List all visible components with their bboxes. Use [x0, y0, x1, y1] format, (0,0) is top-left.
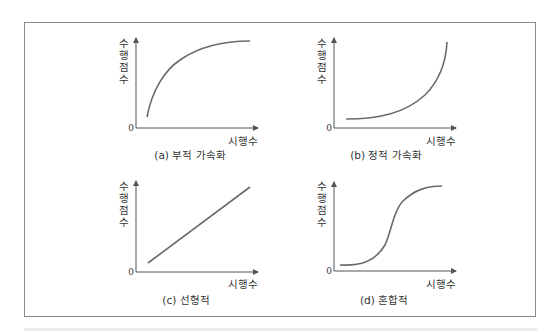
origin-label: 0 — [326, 123, 332, 133]
y-axis-label-char: 수 — [317, 73, 327, 85]
x-axis-label: 시행수 — [426, 278, 456, 290]
panel-caption: (a) 부적 가속화 — [154, 149, 225, 161]
learning-curves-figure: 수 행 점 수 0 시행수 (a) 부적 가속화 수 행 점 수 0 시행수 (… — [0, 0, 558, 332]
origin-label: 0 — [128, 267, 134, 277]
origin-label: 0 — [128, 123, 134, 133]
panel-b: 수 행 점 수 0 시행수 (b) 정적 가속화 — [317, 37, 456, 161]
y-axis-label-char: 수 — [119, 73, 129, 85]
panel-c: 수 행 점 수 0 시행수 (c) 선형적 — [119, 180, 258, 306]
y-axis-label-char: 수 — [317, 216, 327, 228]
x-axis-label: 시행수 — [228, 278, 258, 290]
y-axis-label-char: 수 — [317, 180, 327, 192]
origin-label: 0 — [326, 266, 332, 276]
y-axis-label-char: 수 — [119, 180, 129, 192]
y-axis-label-char: 수 — [119, 216, 129, 228]
panel-a: 수 행 점 수 0 시행수 (a) 부적 가속화 — [119, 37, 258, 161]
x-axis-label: 시행수 — [228, 135, 258, 147]
curve-linear — [148, 187, 250, 263]
y-axis-label-char: 점 — [119, 204, 129, 216]
x-axis-label: 시행수 — [426, 135, 456, 147]
y-axis-label-char: 행 — [119, 192, 129, 204]
y-axis-label-char: 점 — [317, 204, 327, 216]
y-axis-label-char: 점 — [119, 61, 129, 73]
panel-caption: (d) 혼합적 — [360, 294, 408, 306]
curve-s-shaped — [340, 186, 442, 265]
y-axis-label-char: 수 — [119, 37, 129, 49]
y-axis-label-char: 행 — [317, 192, 327, 204]
curve-positive-acceleration — [346, 42, 447, 119]
y-axis-label-char: 행 — [317, 49, 327, 61]
panel-d: 수 행 점 수 0 시행수 (d) 혼합적 — [317, 180, 456, 306]
y-axis-label-char: 점 — [317, 61, 327, 73]
panel-caption: (b) 정적 가속화 — [350, 149, 422, 161]
y-axis-label-char: 수 — [317, 37, 327, 49]
panel-caption: (c) 선형적 — [162, 294, 209, 306]
curve-negative-acceleration — [147, 41, 250, 117]
y-axis-label-char: 행 — [119, 49, 129, 61]
